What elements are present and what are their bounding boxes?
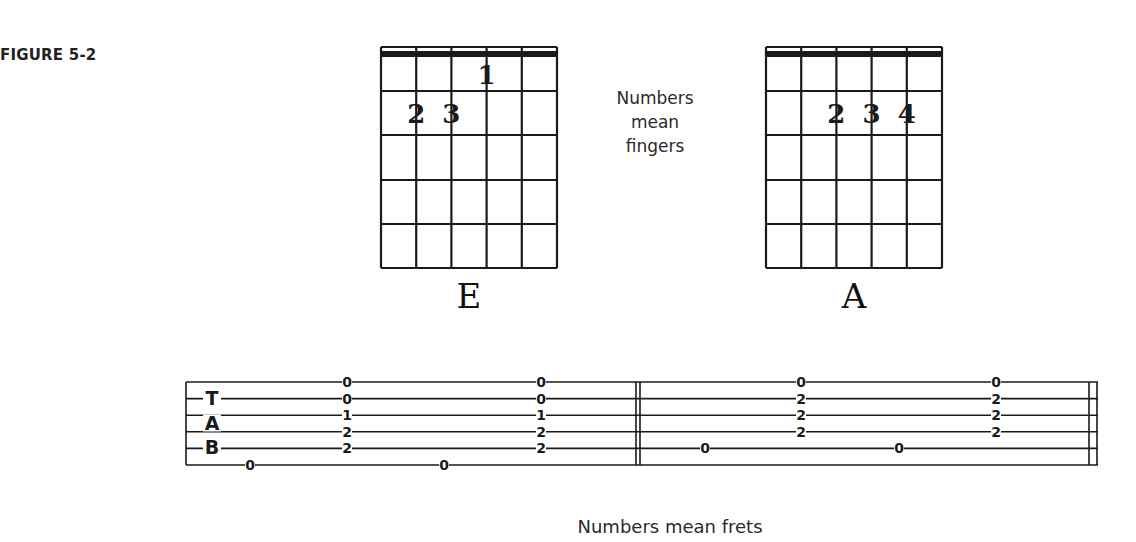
tab-fret-number: 2 [796, 391, 806, 407]
fingers-caption-line: mean [590, 110, 720, 134]
tab-clef-letter: B [205, 436, 219, 458]
finger-number: 3 [863, 99, 881, 129]
tab-fret-number: 2 [536, 440, 546, 456]
tab-fret-number: 0 [991, 374, 1001, 390]
finger-number: 4 [898, 99, 916, 129]
chord-name-e: E [439, 276, 499, 316]
tab-fret-number: 0 [700, 440, 710, 456]
frets-caption: Numbers mean frets [500, 516, 840, 537]
tab-fret-number: 2 [991, 424, 1001, 440]
finger-number: 2 [827, 99, 845, 129]
tab-fret-number: 2 [536, 424, 546, 440]
tab-fret-number: 0 [536, 391, 546, 407]
tab-fret-number: 0 [245, 457, 255, 473]
finger-number: 1 [478, 60, 496, 90]
tab-fret-number: 2 [342, 440, 352, 456]
chord-box-a: 234 [766, 47, 942, 268]
tab-fret-number: 0 [796, 374, 806, 390]
tab-fret-number: 2 [342, 424, 352, 440]
guitar-diagram: 123 234 TAB0001220001220022200222 [0, 0, 1136, 542]
tab-fret-number: 2 [991, 391, 1001, 407]
tab-fret-number: 2 [796, 407, 806, 423]
fingers-caption-line: fingers [590, 134, 720, 158]
chord-name-a: A [824, 276, 884, 316]
tab-fret-number: 0 [342, 374, 352, 390]
tab-clef-letter: A [205, 412, 220, 434]
tab-fret-number: 2 [991, 407, 1001, 423]
finger-number: 3 [442, 99, 460, 129]
chord-box-e: 123 [381, 47, 557, 268]
finger-number: 2 [407, 99, 425, 129]
tab-clef-letter: T [206, 387, 219, 409]
tab-staff: TAB0001220001220022200222 [186, 374, 1098, 473]
fingers-caption: Numbers mean fingers [590, 86, 720, 158]
tab-fret-number: 0 [536, 374, 546, 390]
tab-fret-number: 0 [342, 391, 352, 407]
tab-fret-number: 1 [536, 407, 546, 423]
tab-fret-number: 1 [342, 407, 352, 423]
tab-fret-number: 0 [894, 440, 904, 456]
tab-fret-number: 0 [439, 457, 449, 473]
tab-fret-number: 2 [796, 424, 806, 440]
fingers-caption-line: Numbers [590, 86, 720, 110]
